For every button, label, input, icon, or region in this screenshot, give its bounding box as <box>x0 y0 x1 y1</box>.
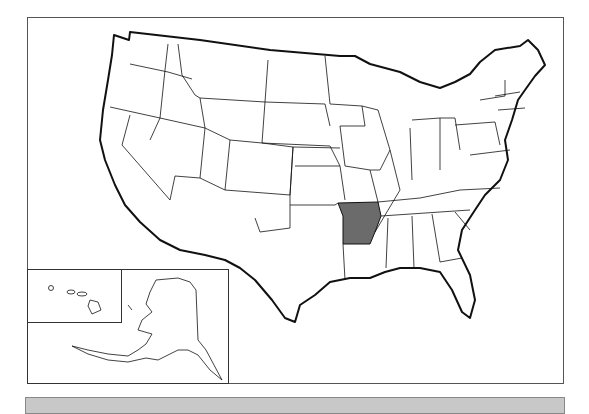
bottom-bar <box>25 397 565 414</box>
inset-alaska <box>27 269 229 384</box>
